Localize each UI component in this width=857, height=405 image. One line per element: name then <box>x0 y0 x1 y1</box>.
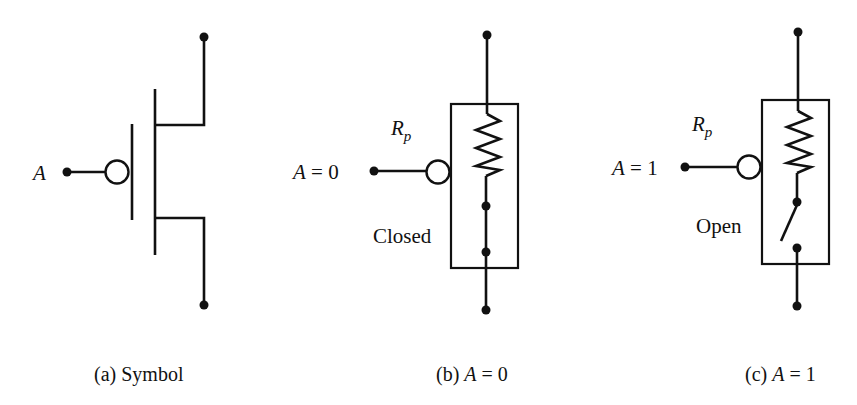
switch-contact-dot <box>482 202 491 211</box>
bottom-terminal-dot <box>793 302 802 311</box>
panel-c-open: A = 1 Rp Open <box>610 28 829 311</box>
bottom-terminal-dot <box>200 301 209 310</box>
input-label-b: A = 0 <box>291 160 339 184</box>
panel-a-symbol: A <box>31 33 209 310</box>
resistor-label-b: Rp <box>390 116 412 144</box>
top-terminal-dot <box>200 33 209 42</box>
resistor-zigzag <box>787 111 811 173</box>
caption-b: (b) A = 0 <box>436 363 508 386</box>
drain-branch <box>155 218 204 305</box>
switch-contact-dot <box>482 248 491 257</box>
input-label-a: A <box>31 161 46 185</box>
inversion-bubble <box>106 161 129 184</box>
switch-state-label-b: Closed <box>373 224 432 248</box>
resistor-zigzag <box>476 114 500 176</box>
switch-contact-dot <box>793 244 802 253</box>
top-terminal-dot <box>483 31 492 40</box>
inversion-bubble <box>427 161 450 184</box>
open-switch-blade <box>781 205 797 241</box>
panel-b-closed: A = 0 Rp Closed <box>291 31 518 315</box>
input-label-c: A = 1 <box>610 156 658 180</box>
transistor-box <box>451 104 518 268</box>
inversion-bubble <box>738 156 761 179</box>
switch-contact-dot <box>793 198 802 207</box>
bottom-terminal-dot <box>482 306 491 315</box>
switch-state-label-c: Open <box>696 214 742 238</box>
source-branch <box>155 37 204 125</box>
caption-a: (a) Symbol <box>94 363 184 386</box>
caption-c: (c) A = 1 <box>745 363 816 386</box>
top-terminal-dot <box>794 28 803 37</box>
resistor-label-c: Rp <box>691 112 713 140</box>
pmos-transistor-diagram: A A = 0 Rp Closed A = 1 Rp <box>0 0 857 405</box>
